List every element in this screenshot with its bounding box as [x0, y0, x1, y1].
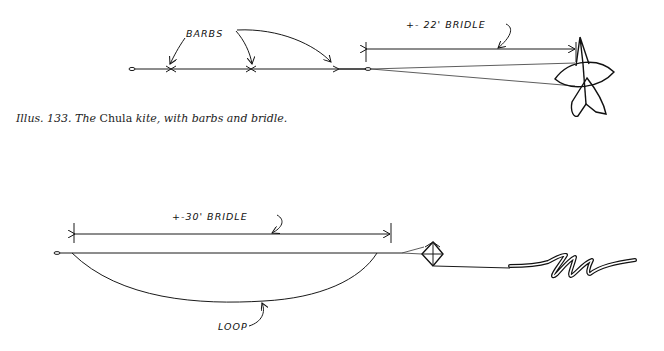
bridle-leg-lower: [402, 253, 422, 254]
caption-kite-name: Chula: [100, 112, 133, 125]
bridle-line-upper: [371, 63, 575, 69]
diagram-canvas: BARBS +- 22' BRIDLE +-30' BRIDLE LOOP: [0, 0, 664, 351]
line-end-ring: [129, 67, 135, 70]
bridle-leg-upper: [402, 247, 424, 253]
barbs-label: BARBS: [186, 28, 223, 39]
caption-suffix: kite, with barbs and bridle.: [132, 112, 287, 125]
bridle-30-label: +-30' BRIDLE: [172, 211, 248, 222]
bridle-30-arrow: [272, 215, 282, 233]
diamond-kite-shape: [422, 242, 443, 266]
figure-chula-kite: BARBS +- 22' BRIDLE: [129, 19, 614, 116]
loop-label: LOOP: [218, 321, 248, 332]
loop-curve: [72, 253, 377, 302]
bridle-line-lower: [371, 69, 575, 86]
tail-line: [434, 266, 510, 268]
barbs-arrow-2: [236, 31, 252, 64]
barbs-arrow-1: [170, 38, 185, 64]
line-end-ring-2: [54, 252, 60, 255]
bridle-22-arrow: [498, 24, 511, 48]
loop-arrow: [249, 303, 263, 326]
figure-caption: Illus. 133. The Chula kite, with barbs a…: [16, 112, 287, 125]
barbs-arrow-3: [237, 30, 331, 62]
caption-prefix: Illus. 133. The: [16, 112, 100, 125]
bridle-22-label: +- 22' BRIDLE: [406, 19, 486, 30]
figure-loop-bridle-kite: +-30' BRIDLE LOOP: [54, 211, 635, 332]
